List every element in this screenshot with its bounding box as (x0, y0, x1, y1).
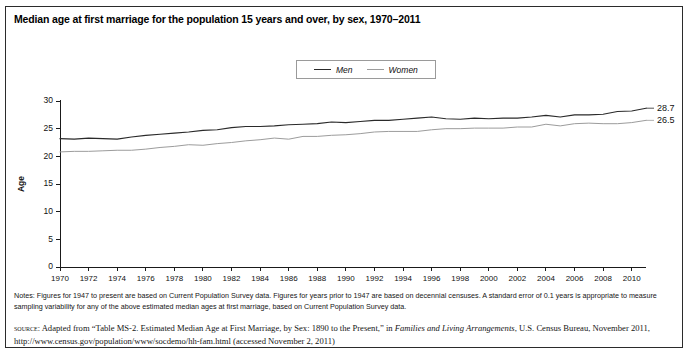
svg-text:1980: 1980 (194, 274, 212, 283)
svg-text:1996: 1996 (423, 274, 441, 283)
svg-text:2002: 2002 (508, 274, 526, 283)
svg-text:1970: 1970 (51, 274, 69, 283)
svg-text:1982: 1982 (223, 274, 241, 283)
svg-text:2008: 2008 (594, 274, 612, 283)
svg-text:20: 20 (44, 151, 54, 161)
chart-svg: 051015202530Age1970197219741976197819801… (0, 0, 690, 300)
svg-text:1976: 1976 (137, 274, 155, 283)
svg-text:1972: 1972 (80, 274, 98, 283)
figure-source: source: Adapted from “Table MS-2. Estima… (14, 322, 676, 348)
svg-text:1978: 1978 (165, 274, 183, 283)
svg-text:1986: 1986 (280, 274, 298, 283)
svg-text:1974: 1974 (108, 274, 126, 283)
svg-text:2000: 2000 (480, 274, 498, 283)
svg-text:1988: 1988 (308, 274, 326, 283)
svg-text:0: 0 (48, 261, 53, 271)
svg-text:15: 15 (44, 178, 54, 188)
svg-text:1984: 1984 (251, 274, 269, 283)
end-label-men: 28.7 (657, 103, 675, 113)
svg-text:2004: 2004 (537, 274, 555, 283)
series-line-women (60, 120, 646, 152)
svg-text:1994: 1994 (394, 274, 412, 283)
source-text-part1: Adapted from “Table MS-2. Estimated Medi… (40, 323, 395, 333)
svg-text:2006: 2006 (566, 274, 584, 283)
svg-text:1992: 1992 (366, 274, 384, 283)
end-label-women: 26.5 (657, 115, 675, 125)
source-prefix: source: (14, 324, 40, 333)
chart-plot-area: 051015202530Age1970197219741976197819801… (0, 0, 678, 300)
y-axis-title: Age (16, 176, 26, 192)
svg-text:30: 30 (44, 95, 54, 105)
svg-text:25: 25 (44, 123, 54, 133)
svg-text:1990: 1990 (337, 274, 355, 283)
figure-notes: Notes: Figures for 1947 to present are b… (14, 290, 676, 312)
svg-text:1998: 1998 (451, 274, 469, 283)
svg-text:10: 10 (44, 206, 54, 216)
source-publication-title: Families and Living Arrangements (395, 323, 515, 333)
svg-text:5: 5 (48, 234, 53, 244)
svg-text:2010: 2010 (623, 274, 641, 283)
